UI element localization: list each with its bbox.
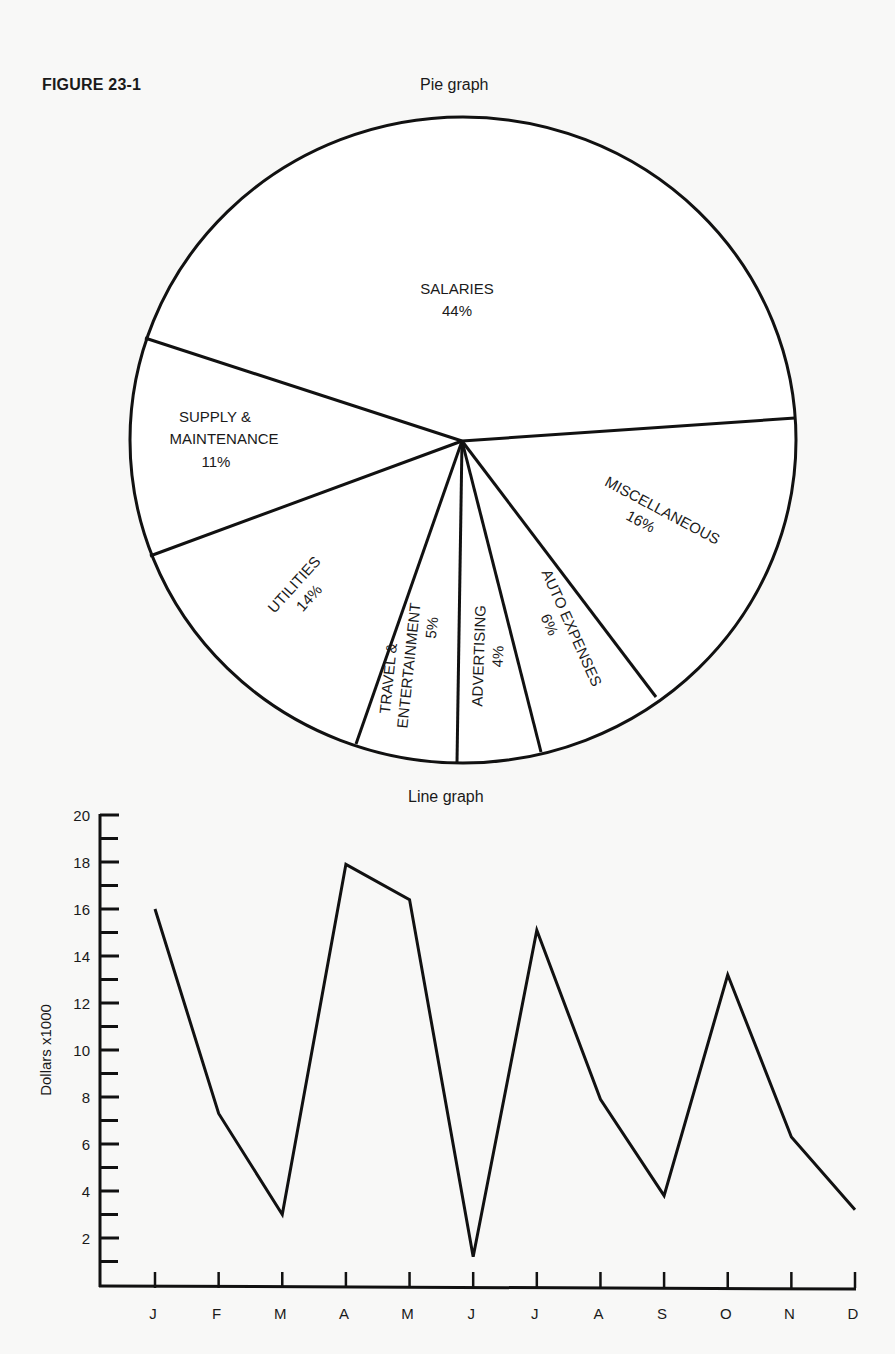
- x-axis-tick-labels: JFMAMJJASOND: [149, 1305, 858, 1322]
- y-tick-label: 8: [82, 1089, 90, 1106]
- svg-text:ADVERTISING: ADVERTISING: [468, 605, 489, 707]
- y-tick-label: 14: [73, 948, 90, 965]
- x-tick-label: A: [339, 1305, 349, 1322]
- x-axis-ticks: [155, 1272, 855, 1288]
- svg-text:4%: 4%: [489, 645, 507, 667]
- svg-text:SALARIES: SALARIES: [420, 280, 493, 297]
- x-tick-label: N: [784, 1305, 795, 1322]
- line-chart-axes: [99, 814, 856, 1289]
- x-axis: [99, 1286, 856, 1289]
- pie-chart: SALARIES 44% SUPPLY & MAINTENANCE 11% UT…: [0, 0, 895, 800]
- y-axis-tick-labels: 2468101214161820: [73, 807, 90, 1247]
- x-tick-label: M: [274, 1305, 287, 1322]
- line-series: [155, 864, 855, 1256]
- y-tick-label: 12: [73, 995, 90, 1012]
- y-tick-label: 18: [73, 854, 90, 871]
- x-tick-label: J: [149, 1305, 157, 1322]
- y-axis-label: Dollars x1000: [37, 1004, 54, 1096]
- svg-text:44%: 44%: [442, 302, 472, 319]
- svg-text:5%: 5%: [422, 616, 441, 639]
- x-tick-label: O: [720, 1305, 732, 1322]
- y-tick-label: 20: [73, 807, 90, 824]
- svg-text:MAINTENANCE: MAINTENANCE: [169, 430, 278, 447]
- y-tick-label: 4: [82, 1183, 90, 1200]
- y-tick-label: 10: [73, 1042, 90, 1059]
- svg-text:SUPPLY &: SUPPLY &: [179, 408, 251, 425]
- x-tick-label: J: [531, 1305, 539, 1322]
- x-tick-label: J: [467, 1305, 475, 1322]
- x-tick-label: M: [401, 1305, 414, 1322]
- svg-text:11%: 11%: [202, 453, 231, 470]
- y-tick-label: 16: [73, 901, 90, 918]
- y-axis-ticks: [100, 815, 119, 1262]
- y-tick-label: 2: [82, 1230, 90, 1247]
- x-tick-label: A: [593, 1305, 603, 1322]
- x-tick-label: S: [657, 1305, 667, 1322]
- y-tick-label: 6: [82, 1136, 90, 1153]
- x-tick-label: D: [848, 1305, 859, 1322]
- x-tick-label: F: [212, 1305, 221, 1322]
